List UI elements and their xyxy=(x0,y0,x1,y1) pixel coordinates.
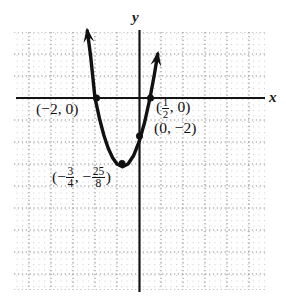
fraction-denominator: 4 xyxy=(66,178,74,190)
coordinate-plane xyxy=(0,0,286,304)
x-axis-label: x xyxy=(269,90,277,105)
graph-figure: y x (−2, 0) (12, 0) (0, −2) (−34, −258) xyxy=(0,0,286,304)
comma-zero-paren: , 0) xyxy=(170,98,191,115)
fraction-numerator: 1 xyxy=(162,97,170,109)
annotation-x-intercept-left: (−2, 0) xyxy=(36,101,78,117)
vertex-paren-open: (− xyxy=(52,168,66,185)
fraction-three-fourths: 34 xyxy=(66,166,74,190)
fraction-denominator: 8 xyxy=(92,178,106,190)
vertex-comma-minus: , − xyxy=(75,168,92,185)
annotation-x-intercept-right: (12, 0) xyxy=(156,97,190,120)
vertex-paren-close: ) xyxy=(106,168,111,185)
fraction-one-half: 12 xyxy=(162,97,170,120)
y-axis-label: y xyxy=(132,10,139,25)
x-intercept-left-dot xyxy=(93,95,100,102)
annotation-vertex: (−34, −258) xyxy=(52,166,111,190)
paren-open: ( xyxy=(156,98,161,115)
fraction-twentyfive-eighths: 258 xyxy=(92,166,106,190)
y-intercept-dot xyxy=(136,133,143,140)
x-intercept-right-dot xyxy=(147,95,154,102)
annotation-y-intercept: (0, −2) xyxy=(154,120,196,136)
vertex-dot xyxy=(119,160,126,167)
